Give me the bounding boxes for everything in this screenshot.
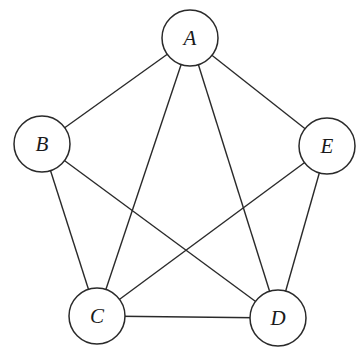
edge-a-d (190, 38, 278, 318)
node-label: C (90, 304, 105, 328)
node-label: E (320, 134, 334, 158)
graph-diagram: ABECD (0, 0, 357, 353)
node-e: E (299, 118, 355, 174)
nodes-group: ABECD (14, 10, 355, 346)
edges-group (42, 38, 327, 318)
node-b: B (14, 116, 70, 172)
edge-e-c (97, 146, 327, 316)
node-c: C (69, 288, 125, 344)
node-a: A (162, 10, 218, 66)
node-label: D (269, 306, 285, 330)
node-label: A (182, 26, 197, 50)
edge-a-c (97, 38, 190, 316)
node-d: D (250, 290, 306, 346)
node-label: B (36, 132, 49, 156)
edge-b-d (42, 144, 278, 318)
